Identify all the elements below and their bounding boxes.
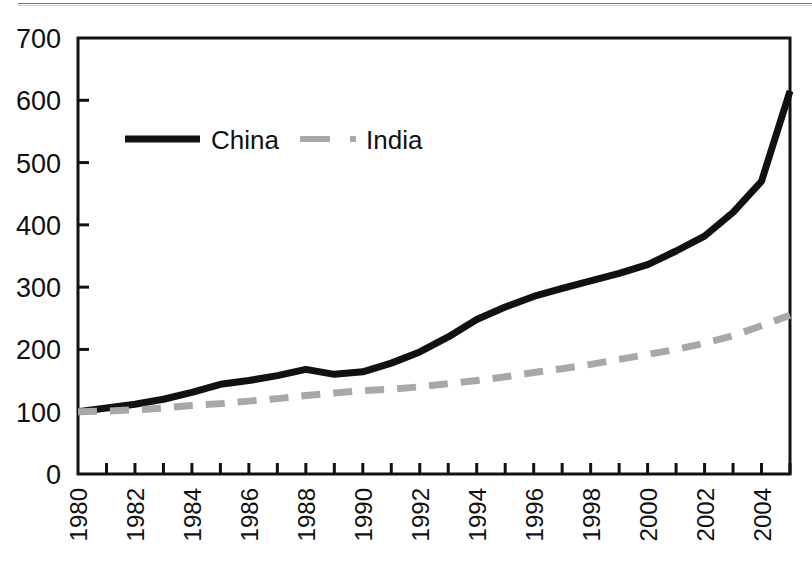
scan-line-artifact xyxy=(18,3,812,4)
x-tick-label: 2000 xyxy=(635,488,662,541)
chart-figure: 0100200300400500600700 19801982198419861… xyxy=(0,0,812,563)
x-tick-label: 1986 xyxy=(236,488,263,541)
x-tick-label: 2002 xyxy=(692,488,719,541)
x-tick-label: 1988 xyxy=(293,488,320,541)
y-tick-label: 700 xyxy=(16,24,61,54)
x-tick-label: 1982 xyxy=(122,488,149,541)
y-tick-label: 500 xyxy=(16,149,61,179)
x-tick-label: 1980 xyxy=(65,488,92,541)
y-tick-label: 200 xyxy=(16,335,61,365)
x-tick-label: 1984 xyxy=(179,488,206,541)
x-tick-label: 1998 xyxy=(578,488,605,541)
y-tick-label: 400 xyxy=(16,211,61,241)
x-tick-label: 1990 xyxy=(350,488,377,541)
x-tick-label: 2004 xyxy=(749,488,776,541)
x-tick-label: 1994 xyxy=(464,488,491,541)
legend-label-india: India xyxy=(366,125,423,155)
y-tick-label: 600 xyxy=(16,86,61,116)
y-tick-label: 0 xyxy=(46,460,61,490)
x-tick-label: 1996 xyxy=(521,488,548,541)
y-tick-label: 300 xyxy=(16,273,61,303)
x-tick-label: 1992 xyxy=(407,488,434,541)
scan-line-artifact-secondary xyxy=(18,5,812,6)
y-tick-label: 100 xyxy=(16,398,61,428)
line-chart: 0100200300400500600700 19801982198419861… xyxy=(0,0,812,563)
legend-label-china: China xyxy=(211,125,279,155)
